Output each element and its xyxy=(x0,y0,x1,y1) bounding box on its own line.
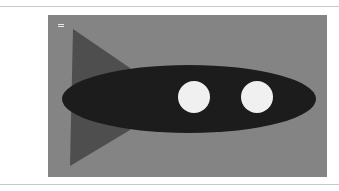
handle-line xyxy=(58,24,64,25)
bottom-divider xyxy=(0,184,339,185)
rocket-window-1[interactable] xyxy=(178,81,210,113)
top-divider xyxy=(0,6,339,7)
drawing-canvas[interactable] xyxy=(48,15,327,177)
drag-handle-icon[interactable] xyxy=(57,23,65,29)
handle-line xyxy=(58,26,64,27)
rocket-window-2[interactable] xyxy=(241,81,273,113)
rocket-drawing xyxy=(48,15,327,177)
